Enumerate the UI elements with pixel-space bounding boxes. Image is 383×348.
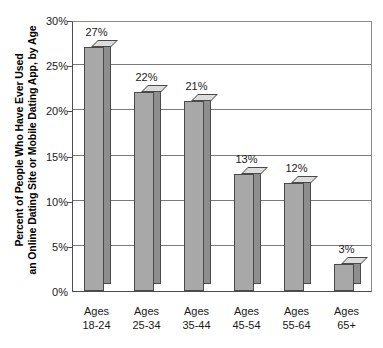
y-axis-tick-label: 30% [28,15,68,27]
bar-value-label: 27% [77,26,117,38]
y-axis-tick-label: 20% [28,105,68,117]
y-axis-tick-label: 0% [28,286,68,298]
x-axis-tick-label: Ages55-64 [269,304,325,332]
bar-front-face [134,92,154,291]
x-axis-tick-label: Ages45-54 [219,304,275,332]
gridline [73,155,371,156]
x-axis-tick-label: Ages25-34 [119,304,175,332]
y-axis-tick-label: 5% [28,241,68,253]
bar-front-face [334,264,354,291]
bar-top-face [141,85,168,92]
y-axis-title-line-1: Percent of People Who Have Ever Used [13,53,26,246]
x-axis-tick-label-line-2: 55-64 [269,318,325,332]
bar-front-face [234,174,254,291]
y-axis-tick-label: 10% [28,196,68,208]
bar-top-face [241,167,268,174]
gridline [73,64,371,65]
x-axis-tick-label-line-1: Ages [219,304,275,318]
bar-side-face [304,176,311,284]
gridline [73,200,371,201]
bar-side-face [104,40,111,284]
bar-top-face [191,94,218,101]
bar-value-label: 12% [277,162,317,174]
y-axis-tick-label: 25% [28,60,68,72]
bar-side-face [154,85,161,284]
bar [184,94,211,291]
x-axis-tick-label-line-2: 45-54 [219,318,275,332]
x-axis-tick-label: Ages18-24 [69,304,125,332]
bar-front-face [284,183,304,291]
bar [134,85,161,291]
bar-top-face [291,176,318,183]
x-axis-tick-label-line-1: Ages [69,304,125,318]
x-axis-tick-label-line-1: Ages [269,304,325,318]
bar-front-face [84,47,104,291]
bar [284,176,311,291]
bar-value-label: 21% [177,80,217,92]
bar [234,167,261,291]
x-axis-tick-label-line-1: Ages [119,304,175,318]
x-axis-tick-label: Ages65+ [319,304,375,332]
x-axis-tick-label-line-2: 18-24 [69,318,125,332]
x-axis-tick-label-line-2: 25-34 [119,318,175,332]
bar-side-face [254,167,261,284]
bar-value-label: 3% [327,243,367,255]
bar-chart: Percent of People Who Have Ever Used an … [0,0,383,348]
bar-top-face [341,257,368,264]
bar-side-face [204,94,211,284]
x-axis-tick-label-line-2: 65+ [319,318,375,332]
x-axis-tick-label: Ages35-44 [169,304,225,332]
bar-top-face [91,40,118,47]
bar [334,257,361,291]
bar-value-label: 22% [127,71,167,83]
x-axis-tick-label-line-1: Ages [319,304,375,318]
bar [84,40,111,291]
gridline [73,109,371,110]
x-axis-tick-label-line-1: Ages [169,304,225,318]
x-axis-tick-label-line-2: 35-44 [169,318,225,332]
y-axis-tick-label: 15% [28,151,68,163]
bar-value-label: 13% [227,153,267,165]
bar-front-face [184,101,204,291]
